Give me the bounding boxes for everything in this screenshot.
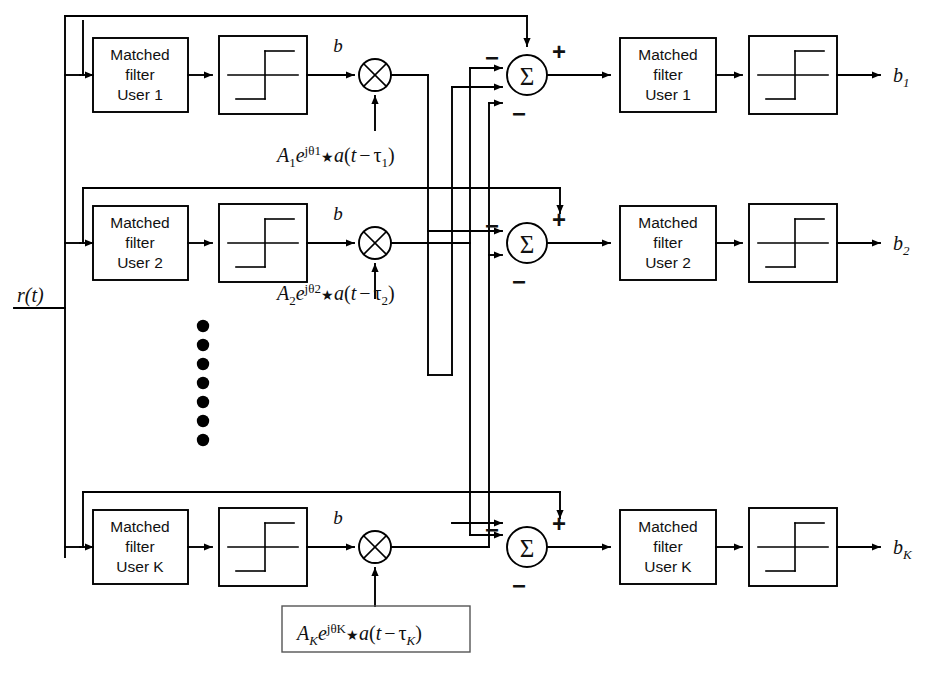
weight-expression-userK: AKejθK★a(t−τK) (295, 621, 422, 648)
output-label-user2: b2 (893, 232, 910, 258)
summation-user1-minus-bottom: − (512, 100, 526, 127)
matched-filter2-user1-line2: filter (653, 66, 682, 83)
weight-expression-user1: A1ejθ1★a(t−τ1) (275, 143, 395, 170)
multiplier-user1-cross (364, 64, 387, 87)
matched-filter-user1-line1: Matched (110, 46, 169, 63)
matched-filter2-user2-line3: User 2 (645, 254, 691, 271)
matched-filter2-user1-line1: Matched (638, 46, 697, 63)
limiter-glyph-userK (228, 523, 298, 571)
matched-filter-user1-line2: filter (125, 66, 154, 83)
summation-user1-symbol: Σ (520, 63, 535, 90)
summation-user1-plus: + (552, 38, 566, 65)
matched-filter2-user1-line3: User 1 (645, 86, 691, 103)
summation-user2-minus-bottom: − (512, 268, 526, 295)
summation-userK-minus-bottom: − (512, 572, 526, 599)
matched-filter2-user2-line1: Matched (638, 214, 697, 231)
input-signal-path (14, 16, 527, 557)
diagram-svg: r(t) Matched filter User 1 b Σ + − − Mat… (0, 0, 933, 679)
limiter2-glyph-userK (758, 523, 828, 571)
limiter-glyph-user2 (228, 219, 298, 267)
matched-filter2-user2-line2: filter (653, 234, 682, 251)
matched-filter-user2-line2: filter (125, 234, 154, 251)
output-label-userK: bK (893, 536, 913, 562)
matched-filter-userK-line2: filter (125, 538, 154, 555)
summation-userK-symbol: Σ (520, 535, 535, 562)
ellipsis-dots (197, 320, 209, 446)
matched-filter-userK-line1: Matched (110, 518, 169, 535)
output-label-user1: b1 (893, 64, 910, 90)
weight-expression-user2: A2ejθ2★a(t−τ2) (275, 281, 395, 308)
summation-user2-plus: + (552, 206, 566, 233)
matched-filter-user2-line1: Matched (110, 214, 169, 231)
b-label-user2: b (333, 203, 343, 224)
matched-filter2-userK-line2: filter (653, 538, 682, 555)
summation-userK-plus: + (552, 510, 566, 537)
limiter2-glyph-user2 (758, 219, 828, 267)
summation-user1-minus-top: − (485, 44, 499, 71)
multiplier-user2-cross (364, 232, 387, 255)
matched-filter2-userK-line3: User K (644, 558, 692, 575)
summation-user2-symbol: Σ (520, 231, 535, 258)
matched-filter-userK-line3: User K (116, 558, 164, 575)
limiter-glyph-user1 (228, 51, 298, 99)
input-label: r(t) (17, 284, 44, 307)
summation-user2-minus-top: − (485, 212, 499, 239)
b-label-user1: b (333, 35, 343, 56)
matched-filter-user2-line3: User 2 (117, 254, 163, 271)
matched-filter-user1-line3: User 1 (117, 86, 163, 103)
multiplier-userK-cross (364, 536, 387, 559)
matched-filter2-userK-line1: Matched (638, 518, 697, 535)
block-diagram-canvas: r(t) Matched filter User 1 b Σ + − − Mat… (0, 0, 933, 679)
summation-userK-minus-top: − (485, 516, 499, 543)
b-label-userK: b (333, 507, 343, 528)
limiter2-glyph-user1 (758, 51, 828, 99)
